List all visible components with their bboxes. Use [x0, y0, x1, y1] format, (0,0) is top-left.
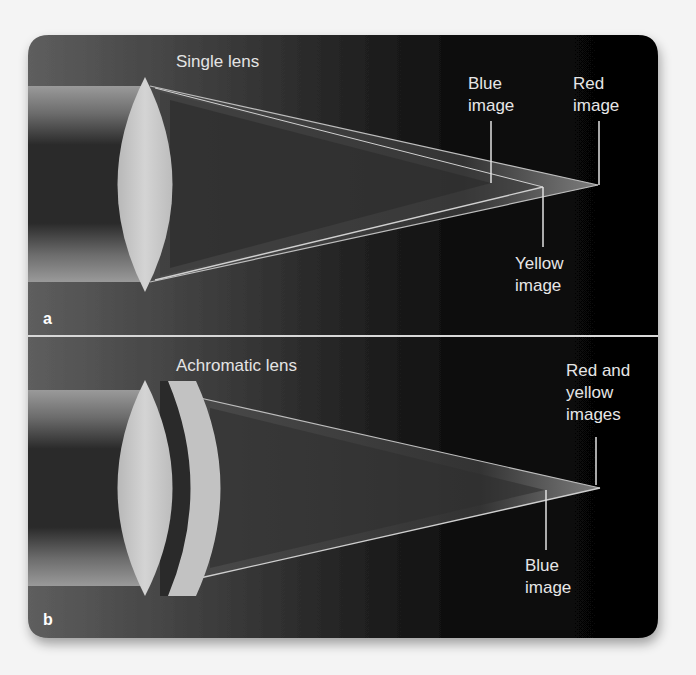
panel-a-letter: a: [43, 310, 52, 327]
label-red-yellow-line3: images: [566, 405, 621, 424]
label-red-image-line1: Red: [573, 74, 604, 93]
label-yellow-image-line1: Yellow: [515, 254, 564, 273]
label-red-image-line2: image: [573, 96, 619, 115]
label-blue-image-line2: image: [468, 96, 514, 115]
panel-a-title: Single lens: [176, 52, 259, 71]
label-red-yellow-line1: Red and: [566, 361, 630, 380]
lens-diagram-figure: Single lens Blue image Red image Yellow …: [0, 0, 696, 675]
label-blue-image-b-line2: image: [525, 578, 571, 597]
panel-b-title: Achromatic lens: [176, 356, 297, 375]
label-red-yellow-line2: yellow: [566, 383, 614, 402]
panel-b-letter: b: [43, 611, 53, 628]
label-blue-image-line1: Blue: [468, 74, 502, 93]
label-yellow-image-line2: image: [515, 276, 561, 295]
label-blue-image-b-line1: Blue: [525, 556, 559, 575]
